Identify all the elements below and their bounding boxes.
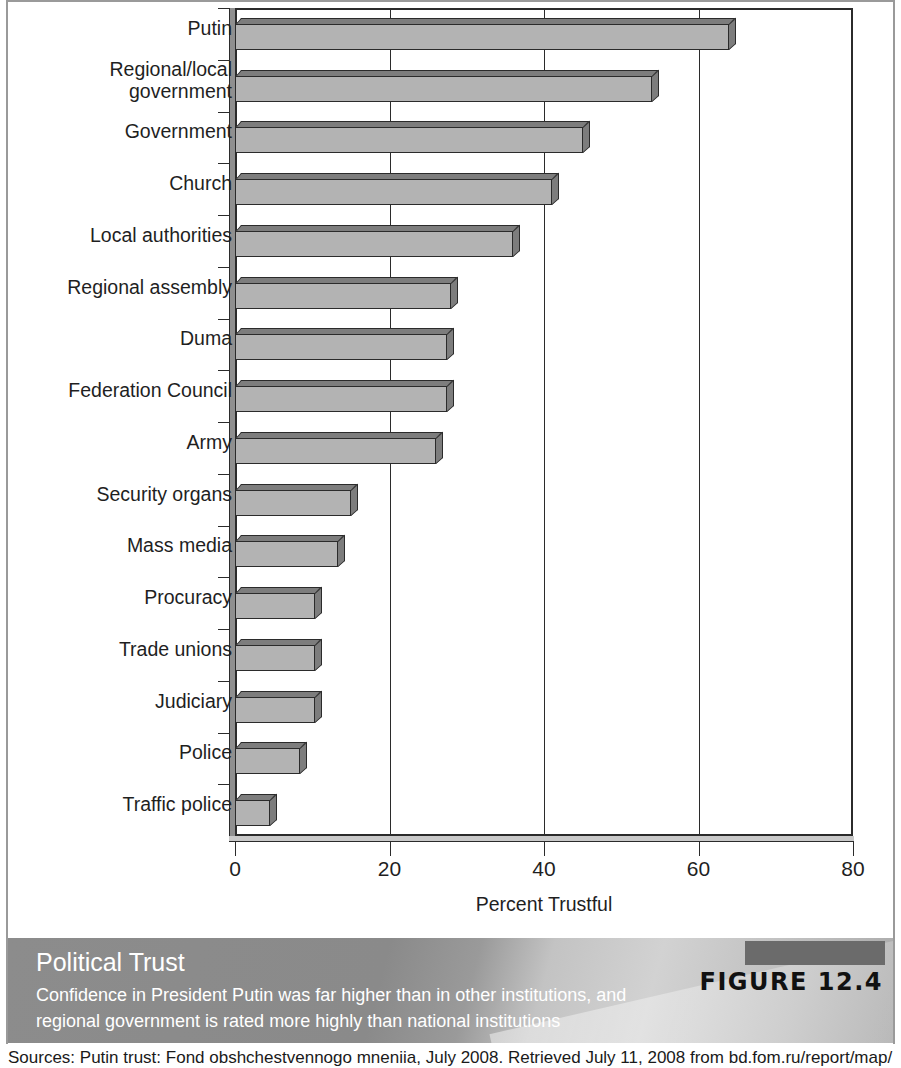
y-tick-mark — [218, 526, 229, 527]
x-tick-label: 20 — [378, 857, 401, 881]
x-axis-title: Percent Trustful — [235, 893, 853, 916]
bar — [235, 794, 278, 828]
x-tick-mark — [699, 842, 700, 856]
bar-face — [235, 179, 552, 205]
y-tick-mark — [218, 784, 229, 785]
y-tick-label: Duma — [180, 327, 232, 349]
bar — [235, 380, 455, 414]
bar-side-shade — [315, 639, 322, 671]
bar-face — [235, 283, 451, 309]
bar-side-shade — [436, 432, 443, 464]
figure-sources: Sources: Putin trust: Fond obshchestvenn… — [8, 1048, 901, 1068]
bar — [235, 432, 444, 466]
y-tick-label: Mass media — [127, 534, 232, 556]
x-tick-label: 40 — [532, 857, 555, 881]
y-tick-label: Army — [187, 431, 233, 453]
bar-side-shade — [447, 380, 454, 412]
bar-side-shade — [351, 483, 358, 515]
bar-face — [235, 231, 513, 257]
bar-face — [235, 334, 447, 360]
y-tick-mark — [218, 267, 229, 268]
bar — [235, 328, 455, 362]
bar-side-shade — [270, 794, 277, 826]
bar-side-shade — [315, 587, 322, 619]
y-tick-mark — [218, 629, 229, 630]
figure-caption-band: FIGURE 12.4 Political Trust Confidence i… — [8, 938, 893, 1043]
y-tick-label: Regional assembly — [67, 276, 232, 298]
y-tick-label: Judiciary — [155, 690, 232, 712]
y-tick-mark — [218, 422, 229, 423]
gridline — [699, 10, 700, 834]
y-tick-label: Putin — [188, 17, 232, 39]
y-tick-mark — [218, 577, 229, 578]
bar-face — [235, 645, 315, 671]
bar-side-shade — [552, 173, 559, 205]
bar-face — [235, 438, 436, 464]
bar — [235, 639, 323, 673]
bar-face — [235, 748, 300, 774]
x-tick-mark — [544, 842, 545, 856]
y-tick-label: Local authorities — [90, 224, 232, 246]
bar-face — [235, 490, 351, 516]
y-tick-label: Police — [179, 741, 232, 763]
bar-face — [235, 541, 338, 567]
figure-badge-swatch — [745, 941, 885, 965]
y-tick-mark — [218, 681, 229, 682]
y-tick-mark — [218, 163, 229, 164]
x-tick-mark — [853, 842, 854, 856]
y-tick-mark — [218, 8, 229, 9]
bar-side-shade — [447, 328, 454, 360]
figure-page: PutinRegional/local governmentGovernment… — [0, 0, 901, 1068]
y-tick-mark — [218, 215, 229, 216]
bar — [235, 173, 560, 207]
figure-description: Confidence in President Putin was far hi… — [36, 982, 676, 1034]
bar-side-shade — [729, 18, 736, 50]
x-tick-label: 60 — [687, 857, 710, 881]
bar-side-shade — [583, 121, 590, 153]
y-tick-label: Federation Council — [68, 379, 232, 401]
bar-chart: PutinRegional/local governmentGovernment… — [0, 0, 901, 935]
y-tick-label: Trade unions — [119, 638, 232, 660]
figure-number-label: FIGURE 12.4 — [700, 968, 883, 996]
y-tick-label: Regional/local government — [110, 58, 233, 102]
bar-side-shade — [513, 225, 520, 257]
bar — [235, 691, 323, 725]
bar — [235, 587, 323, 621]
y-tick-label: Church — [169, 172, 232, 194]
bar-face — [235, 593, 315, 619]
bar — [235, 277, 459, 311]
bar-side-shade — [451, 276, 458, 308]
y-tick-label: Security organs — [97, 483, 232, 505]
y-tick-mark — [218, 112, 229, 113]
x-tick-label: 80 — [841, 857, 864, 881]
bar — [235, 742, 308, 776]
bar — [235, 484, 359, 518]
y-tick-label: Government — [125, 120, 232, 142]
bar-face — [235, 800, 270, 826]
bar — [235, 70, 660, 104]
bar-side-shade — [315, 690, 322, 722]
bar-side-shade — [338, 535, 345, 567]
x-tick-mark — [235, 842, 236, 856]
y-tick-label: Procuracy — [144, 586, 232, 608]
y-tick-mark — [218, 733, 229, 734]
bar — [235, 535, 346, 569]
bar — [235, 225, 521, 259]
x-tick-label: 0 — [229, 857, 241, 881]
bar — [235, 121, 591, 155]
bar — [235, 18, 737, 52]
bar-face — [235, 386, 447, 412]
y-tick-mark — [218, 319, 229, 320]
x-axis-spine — [229, 836, 854, 842]
y-tick-label: Traffic police — [123, 793, 232, 815]
figure-title: Political Trust — [36, 948, 185, 977]
x-tick-mark — [390, 842, 391, 856]
bar-face — [235, 76, 652, 102]
y-tick-mark — [218, 370, 229, 371]
bar-face — [235, 24, 729, 50]
bar-side-shade — [300, 742, 307, 774]
y-tick-mark — [218, 474, 229, 475]
bar-face — [235, 697, 315, 723]
bar-face — [235, 127, 583, 153]
bar-side-shade — [652, 69, 659, 101]
